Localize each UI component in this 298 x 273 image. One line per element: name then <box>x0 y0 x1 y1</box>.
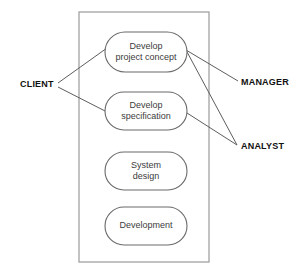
stage-label-develop-project-concept: Develop <box>129 41 162 51</box>
stage-label-system-design: System <box>131 160 161 170</box>
stage-development[interactable]: Development <box>105 207 187 245</box>
stage-label-develop-specification: specification <box>121 111 171 121</box>
role-label-manager[interactable]: MANAGER <box>241 77 289 87</box>
connector-client-to-concept <box>58 48 107 83</box>
diagram-canvas: Developproject conceptDevelopspecificati… <box>0 0 298 273</box>
connector-client-to-specification <box>58 87 107 112</box>
stage-develop-project-concept[interactable]: Developproject concept <box>105 32 187 72</box>
stage-label-develop-specification: Develop <box>129 100 162 110</box>
stage-system-design[interactable]: Systemdesign <box>105 152 187 190</box>
stage-develop-specification[interactable]: Developspecification <box>105 92 187 130</box>
diagram-root: Developproject conceptDevelopspecificati… <box>0 0 298 273</box>
connector-specification-to-analyst <box>187 113 237 145</box>
stages-group: Developproject conceptDevelopspecificati… <box>105 32 187 245</box>
stage-label-development: Development <box>119 220 173 230</box>
role-label-analyst[interactable]: ANALYST <box>241 141 284 151</box>
stage-label-system-design: design <box>133 171 160 181</box>
connector-concept-to-analyst <box>186 50 237 145</box>
stage-label-develop-project-concept: project concept <box>115 52 177 62</box>
role-label-client[interactable]: CLIENT <box>20 79 54 89</box>
